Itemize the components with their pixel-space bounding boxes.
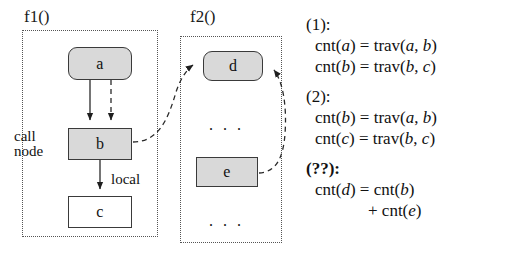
graph-node-e[interactable]: e — [196, 157, 258, 187]
function-label-f1: f1() — [24, 8, 49, 25]
equation-tag-unknown: (??): — [306, 158, 502, 179]
ellipsis-f2-middle: . . . — [209, 117, 244, 133]
graph-node-c[interactable]: c — [68, 196, 132, 228]
equation-group-1: (1): cnt(a) = trav(a, b) cnt(b) = trav(b… — [306, 14, 502, 77]
equation-tag-2: (2): — [306, 86, 502, 107]
graph-node-a[interactable]: a — [68, 47, 132, 80]
graph-node-c-label: c — [96, 203, 103, 221]
equation-group-unknown: (??): cnt(d) = cnt(b) + cnt(e) — [306, 158, 502, 221]
equations-panel: (1): cnt(a) = trav(a, b) cnt(b) = trav(b… — [306, 14, 502, 230]
graph-node-b[interactable]: b — [68, 128, 132, 160]
equation-line: + cnt(e) — [306, 200, 502, 221]
local-edge-label: local — [111, 172, 140, 187]
equation-line: cnt(b) = trav(a, b) — [306, 107, 502, 128]
diagram-canvas: f1() f2() a b c d e call node local . . … — [0, 0, 506, 262]
graph-node-b-label: b — [96, 135, 104, 153]
graph-node-a-label: a — [96, 55, 103, 73]
equation-line: cnt(b) = trav(b, c) — [306, 56, 502, 77]
graph-node-d[interactable]: d — [203, 51, 263, 81]
equation-tag-1: (1): — [306, 14, 502, 35]
graph-node-e-label: e — [223, 163, 230, 181]
equation-line: cnt(a) = trav(a, b) — [306, 35, 502, 56]
call-node-annotation: call node — [14, 129, 43, 159]
equation-line: cnt(d) = cnt(b) — [306, 179, 502, 200]
function-label-f2: f2() — [190, 8, 215, 25]
equation-line: cnt(c) = trav(b, c) — [306, 128, 502, 149]
graph-node-d-label: d — [229, 57, 237, 75]
equation-group-2: (2): cnt(b) = trav(a, b) cnt(c) = trav(b… — [306, 86, 502, 149]
ellipsis-f2-bottom: . . . — [209, 213, 244, 229]
